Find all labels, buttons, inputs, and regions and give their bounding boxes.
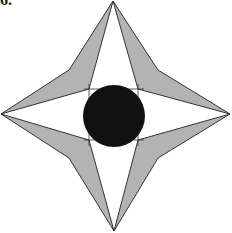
star-figure (0, 0, 232, 233)
center-circle (83, 85, 145, 147)
